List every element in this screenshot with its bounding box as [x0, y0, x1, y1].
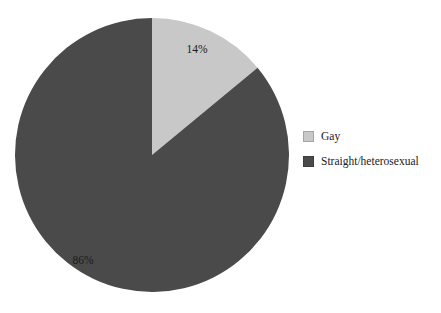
legend-item-straight-heterosexual[interactable]: Straight/heterosexual — [303, 156, 419, 168]
pie-slices — [15, 18, 289, 292]
pie-slice-label-gay: 14% — [186, 43, 208, 55]
pie-slice-label-straight-heterosexual: 86% — [72, 254, 94, 266]
legend-label-gay: Gay — [321, 131, 340, 143]
legend-item-gay[interactable]: Gay — [303, 131, 419, 143]
pie-chart-figure: 14% 86% Gay Straight/heterosexual — [0, 0, 441, 313]
legend-label-straight-heterosexual: Straight/heterosexual — [321, 156, 419, 168]
chart-legend: Gay Straight/heterosexual — [303, 131, 419, 167]
legend-swatch-gay — [303, 131, 314, 142]
legend-swatch-straight-heterosexual — [303, 156, 314, 167]
